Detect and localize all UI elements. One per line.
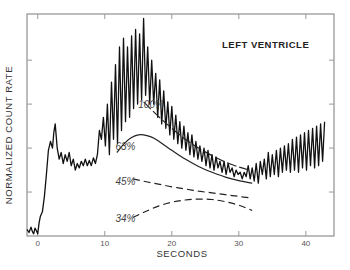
y-axis-label: NORMALIZED COUNT RATE — [3, 66, 14, 204]
curve-63pct — [117, 135, 252, 184]
chart-title: LEFT VENTRICLE — [222, 39, 309, 50]
curve-label-63pct: 63% — [115, 141, 135, 152]
curve-100pct — [144, 102, 253, 171]
x-axis-label: SECONDS — [156, 248, 207, 259]
labels-group: 100%63%45%34% — [115, 99, 163, 223]
x-tick-label: 40 — [301, 239, 310, 248]
series-group — [27, 18, 325, 233]
curve-label-100pct: 100% — [138, 99, 164, 110]
x-tick-label: 10 — [100, 239, 109, 248]
curve-34pct — [133, 199, 252, 217]
curve-label-45pct: 45% — [115, 176, 135, 187]
chart: 010203040 100%63%45%34% LEFT VENTRICLE S… — [0, 0, 350, 270]
curve-label-34pct: 34% — [115, 213, 135, 224]
x-tick-label: 30 — [234, 239, 243, 248]
curve-45pct — [133, 179, 252, 198]
x-tick-label: 20 — [167, 239, 176, 248]
x-tick-label: 0 — [35, 239, 40, 248]
